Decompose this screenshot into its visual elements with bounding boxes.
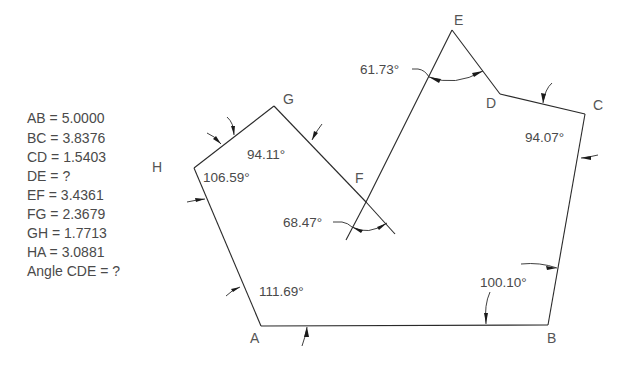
given-angle-cde: Angle CDE = ? <box>27 263 120 279</box>
given-bc: BC = 3.8376 <box>27 130 105 146</box>
edge-bc <box>548 114 585 325</box>
angle-label-a: 111.69° <box>259 284 304 299</box>
edge-fg <box>274 106 366 202</box>
edge-ef <box>366 30 452 202</box>
given-ab: AB = 5.0000 <box>27 110 105 126</box>
vertex-label-g: G <box>283 91 294 107</box>
angle-label-h: 106.59° <box>203 170 250 185</box>
edge-ha <box>194 168 261 326</box>
vertex-label-h: H <box>152 159 162 175</box>
vertex-label-d: D <box>486 95 496 111</box>
given-values-list: AB = 5.0000 BC = 3.8376 CD = 1.5403 DE =… <box>27 110 120 279</box>
polygon-diagram: AB = 5.0000 BC = 3.8376 CD = 1.5403 DE =… <box>0 0 625 367</box>
given-de: DE = ? <box>27 168 70 184</box>
vertex-label-b: B <box>547 330 556 346</box>
given-fg: FG = 2.3679 <box>27 206 105 222</box>
vertex-label-c: C <box>593 97 603 113</box>
angle-arc-f <box>333 222 387 233</box>
angle-arc-e <box>412 69 483 83</box>
f-extension-lines <box>346 202 395 240</box>
angle-label-e: 61.73° <box>360 62 399 77</box>
vertex-label-f: F <box>355 170 364 186</box>
given-ha: HA = 3.0881 <box>27 244 105 260</box>
angle-label-g: 94.11° <box>247 147 285 162</box>
vertex-label-a: A <box>250 330 260 346</box>
angle-label-c: 94.07° <box>525 130 564 145</box>
angle-labels: 61.73° 94.07° 94.11° 106.59° 68.47° 111.… <box>203 62 564 299</box>
given-ef: EF = 3.4361 <box>27 187 104 203</box>
angle-label-f: 68.47° <box>283 215 322 230</box>
angle-label-b: 100.10° <box>480 275 527 290</box>
angle-arc-b <box>484 264 557 325</box>
edge-ab <box>261 325 548 326</box>
given-cd: CD = 1.5403 <box>27 149 106 165</box>
given-gh: GH = 1.7713 <box>27 225 107 241</box>
vertex-label-e: E <box>454 12 463 28</box>
edge-de <box>452 30 500 94</box>
edge-arrows <box>187 83 598 346</box>
